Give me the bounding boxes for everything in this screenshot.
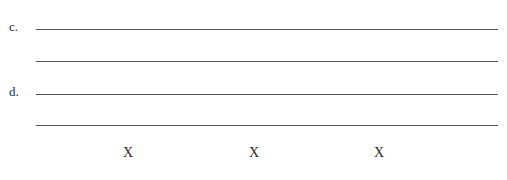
answer-line-d-1[interactable] (36, 94, 498, 95)
x-mark-3: X (374, 146, 384, 160)
answer-line-c-1[interactable] (36, 29, 498, 30)
answer-line-c-2[interactable] (36, 61, 498, 62)
item-label-c: c. (9, 20, 18, 33)
x-mark-1: X (123, 146, 133, 160)
x-mark-2: X (249, 146, 259, 160)
answer-line-d-2[interactable] (36, 125, 498, 126)
item-label-d: d. (9, 85, 19, 98)
